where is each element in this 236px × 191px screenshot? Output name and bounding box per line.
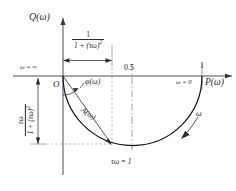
origin-label: O — [53, 80, 60, 89]
phase-label-leader — [80, 83, 84, 88]
imag-part-dimension-arrow-top — [36, 78, 40, 85]
vertical-axis-arrowhead — [60, 18, 65, 25]
horizontal-axis-arrowhead — [225, 73, 232, 78]
imag-part-denominator-base: 1 + (τω) — [26, 109, 35, 135]
real-part-dimension-label: 1 1 + (τω)2 — [62, 31, 114, 49]
omega-direction-arrowhead — [181, 131, 190, 139]
tick-label-half: 0.5 — [124, 64, 134, 72]
imag-part-dimension-label: τω 1 + (τω)2 — [17, 90, 35, 150]
horizontal-axis-label: P(ω) — [205, 78, 224, 88]
real-part-denominator-base: 1 + (τω) — [74, 40, 100, 49]
omega-direction-group — [181, 117, 198, 139]
vertical-axis-label: Q(ω) — [29, 12, 50, 22]
tau-omega-one-label: τω = 1 — [111, 158, 132, 166]
omega-direction-label: ω — [196, 110, 202, 118]
imag-part-denominator-exponent: 2 — [25, 106, 31, 109]
omega-infinity-label: ω = ∞ — [20, 64, 37, 71]
real-part-denominator-exponent: 2 — [99, 39, 102, 45]
imag-part-fraction: τω 1 + (τω)2 — [17, 104, 35, 136]
imag-part-dimension-arrow-bottom — [36, 138, 40, 145]
real-part-numerator: 1 — [72, 31, 104, 39]
real-part-dimension-arrow-left — [63, 58, 70, 62]
phase-angle-group — [63, 83, 84, 95]
real-part-dimension-arrow-right — [106, 58, 113, 62]
tick-label-one: 1 — [200, 62, 204, 70]
omega-zero-label: ω = 0 — [176, 79, 191, 86]
imag-part-numerator: τω — [17, 104, 25, 136]
real-part-denominator: 1 + (τω)2 — [72, 39, 104, 49]
phase-angle-label: φ(ω) — [85, 78, 100, 86]
imag-part-denominator: 1 + (τω)2 — [25, 104, 35, 136]
real-part-fraction: 1 1 + (τω)2 — [72, 31, 104, 49]
